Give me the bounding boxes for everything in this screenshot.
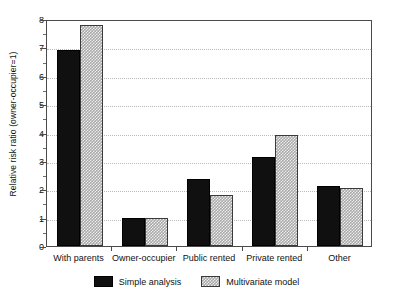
bar: [210, 195, 233, 246]
bar: [252, 157, 275, 246]
bar-group: [177, 21, 242, 246]
y-axis-title: Relative risk ratio (owner-occupier=1): [8, 52, 18, 197]
solid-black-swatch: [94, 276, 113, 287]
bar: [80, 25, 103, 246]
x-axis-tick-mark: [307, 247, 308, 251]
x-axis-category-label: Other: [307, 254, 372, 264]
bar-chart-figure: Relative risk ratio (owner-occupier=1) 0…: [0, 0, 393, 303]
bar: [340, 188, 363, 246]
x-axis-tick-mark: [242, 247, 243, 251]
legend-label: Simple analysis: [119, 277, 182, 287]
chart-legend: Simple analysisMultivariate model: [0, 276, 393, 287]
bar: [317, 186, 340, 246]
bar: [122, 218, 145, 246]
x-axis-tick-mark: [111, 247, 112, 251]
y-axis-title-container: Relative risk ratio (owner-occupier=1): [0, 0, 26, 248]
legend-item: Simple analysis: [94, 276, 182, 287]
bar: [145, 218, 168, 246]
legend-label: Multivariate model: [226, 277, 299, 287]
x-axis-category-label: With parents: [46, 254, 111, 264]
plot-area: [46, 20, 372, 247]
x-axis-category-label: Owner-occupier: [111, 254, 176, 264]
x-axis-category-label: Private rented: [242, 254, 307, 264]
bar: [275, 135, 298, 246]
x-axis-tick-mark: [176, 247, 177, 251]
gray-checkerboard-swatch: [201, 276, 220, 287]
bar-group: [112, 21, 177, 246]
x-axis-category-label: Public rented: [176, 254, 241, 264]
bar: [187, 179, 210, 246]
legend-item: Multivariate model: [201, 276, 299, 287]
bar-group: [308, 21, 372, 246]
y-axis-tick-mark: [40, 247, 46, 248]
bar-group: [243, 21, 308, 246]
bar: [57, 50, 80, 246]
bar-group: [47, 21, 112, 246]
